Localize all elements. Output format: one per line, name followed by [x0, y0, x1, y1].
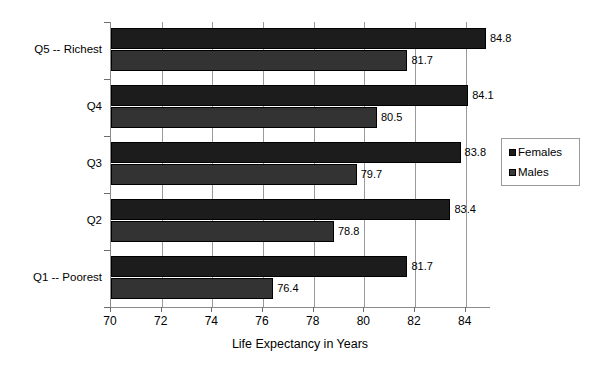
legend-label-males: Males [518, 166, 549, 178]
bar-males[interactable] [111, 164, 357, 185]
x-tick-label: 74 [191, 314, 231, 328]
y-tick [104, 79, 110, 80]
bar-group: 84.180.5 [111, 85, 490, 142]
x-tick [110, 307, 111, 312]
x-tick-label: 76 [242, 314, 282, 328]
x-tick [161, 307, 162, 312]
bar-group: 84.881.7 [111, 28, 490, 85]
x-tick [465, 307, 466, 312]
x-axis-title: Life Expectancy in Years [110, 337, 490, 351]
bar-value-label-females: 84.1 [472, 85, 493, 106]
x-tick [262, 307, 263, 312]
y-tick [104, 193, 110, 194]
bar-females[interactable] [111, 199, 450, 220]
y-tick [104, 307, 110, 308]
bar-value-label-males: 78.8 [338, 221, 359, 242]
x-tick-label: 72 [141, 314, 181, 328]
bar-females[interactable] [111, 85, 468, 106]
x-tick [414, 307, 415, 312]
bar-value-label-females: 83.4 [454, 199, 475, 220]
x-tick [313, 307, 314, 312]
bar-value-label-females: 81.7 [411, 256, 432, 277]
bar-group: 83.478.8 [111, 199, 490, 256]
bar-group: 83.879.7 [111, 142, 490, 199]
plot-area: 84.881.784.180.583.879.783.478.881.776.4 [110, 22, 490, 307]
y-tick [104, 250, 110, 251]
legend-item-males[interactable]: Males [509, 166, 549, 178]
legend-label-females: Females [518, 146, 562, 158]
y-tick [104, 22, 110, 23]
bar-females[interactable] [111, 28, 486, 49]
bar-males[interactable] [111, 107, 377, 128]
category-label: Q1 -- Poorest [0, 271, 102, 283]
bar-females[interactable] [111, 256, 407, 277]
legend: Females Males [501, 138, 580, 186]
bar-value-label-males: 79.7 [361, 164, 382, 185]
bar-value-label-males: 81.7 [411, 50, 432, 71]
males-swatch-icon [509, 169, 516, 176]
bar-value-label-males: 80.5 [381, 107, 402, 128]
y-tick [104, 136, 110, 137]
bar-value-label-females: 83.8 [465, 142, 486, 163]
x-tick-label: 82 [394, 314, 434, 328]
bar-males[interactable] [111, 50, 407, 71]
bar-value-label-males: 76.4 [277, 278, 298, 299]
x-tick-label: 84 [445, 314, 485, 328]
bar-value-label-females: 84.8 [490, 28, 511, 49]
category-label: Q4 [0, 100, 102, 112]
category-label: Q5 -- Richest [0, 43, 102, 55]
category-label: Q2 [0, 214, 102, 226]
females-swatch-icon [509, 149, 516, 156]
x-tick [211, 307, 212, 312]
bar-males[interactable] [111, 221, 334, 242]
bar-group: 81.776.4 [111, 256, 490, 313]
category-label: Q3 [0, 157, 102, 169]
bar-chart: 84.881.784.180.583.879.783.478.881.776.4… [0, 0, 589, 369]
bar-females[interactable] [111, 142, 461, 163]
legend-item-females[interactable]: Females [509, 146, 562, 158]
x-tick-label: 80 [343, 314, 383, 328]
x-axis-line [110, 307, 490, 308]
x-tick-label: 70 [90, 314, 130, 328]
x-tick-label: 78 [293, 314, 333, 328]
bar-males[interactable] [111, 278, 273, 299]
x-tick [363, 307, 364, 312]
